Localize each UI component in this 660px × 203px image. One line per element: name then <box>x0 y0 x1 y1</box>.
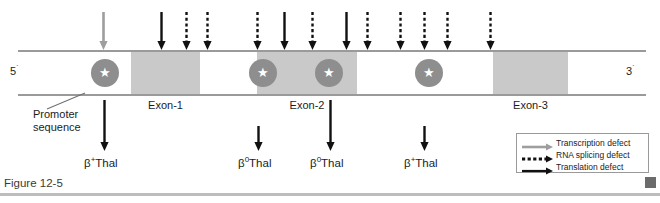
mutation-arrow-bthal-plus-2 <box>420 126 429 151</box>
gene-bar: ★★★★ <box>18 50 646 96</box>
mutation-arrow-bthal-zero-2 <box>326 100 335 151</box>
splicing-defect-arrow-9 <box>486 12 495 50</box>
star-marker-4: ★ <box>415 59 443 87</box>
star-marker-1: ★ <box>91 59 119 87</box>
footer-divider <box>0 193 660 196</box>
mutation-arrow-bthal-zero-1 <box>254 126 263 151</box>
exon-block-1 <box>131 52 200 94</box>
star-marker-2: ★ <box>249 59 277 87</box>
translation-defect-arrow-2 <box>280 12 289 50</box>
splicing-defect-arrow-7 <box>420 12 429 50</box>
beta-glyph: β <box>238 157 245 169</box>
beta-glyph: β <box>404 157 411 169</box>
mutation-label-2: β0Thal <box>238 155 271 169</box>
five-prime-label: 5´ <box>10 63 19 77</box>
exon-caption-1: Exon-1 <box>126 99 206 111</box>
mutation-label-1: β+Thal <box>84 155 118 169</box>
beta-glyph: β <box>310 157 317 169</box>
legend-rna-splicing: RNA splicing defect <box>521 149 648 160</box>
legend-rna-splicing-arrow-icon <box>521 150 553 160</box>
thal-text: Thal <box>95 157 117 169</box>
thal-text: Thal <box>321 157 343 169</box>
promoter-line-1: Promoter <box>33 108 81 121</box>
splicing-defect-arrow-1 <box>182 12 191 50</box>
thal-text: Thal <box>249 157 271 169</box>
legend-rows: Transcription defectRNA splicing defectT… <box>521 137 648 172</box>
splicing-defect-arrow-2 <box>203 12 212 50</box>
figure-caption: Figure 12-5 <box>4 177 63 189</box>
mutation-label-3: β0Thal <box>310 155 343 169</box>
legend-translation: Translation defect <box>521 161 648 172</box>
transcription-defect-arrow <box>99 12 108 50</box>
exon-caption-2: Exon-2 <box>267 99 347 111</box>
three-prime-label: 3´ <box>626 63 635 77</box>
figure-12-5-root: ★★★★ 5´ 3´ Exon-1Exon-2Exon-3 Promoter s… <box>0 0 660 203</box>
promoter-sequence-label: Promoter sequence <box>33 108 81 134</box>
promoter-line-2: sequence <box>33 121 81 134</box>
splicing-defect-arrow-6 <box>396 12 405 50</box>
splicing-defect-arrow-4 <box>308 12 317 50</box>
mutation-label-4: β+Thal <box>404 155 438 169</box>
mutation-arrow-bthal-plus-1 <box>100 100 109 151</box>
legend-transcription-arrow-icon <box>521 138 553 148</box>
beta-glyph: β <box>84 157 91 169</box>
legend-translation-arrow-icon <box>521 162 553 172</box>
translation-defect-arrow-1 <box>157 12 166 50</box>
exon-block-3 <box>493 52 568 94</box>
legend-transcription-label: Transcription defect <box>556 138 630 148</box>
legend-rna-splicing-label: RNA splicing defect <box>556 150 630 160</box>
splicing-defect-arrow-8 <box>443 12 452 50</box>
thal-text: Thal <box>415 157 437 169</box>
legend-translation-label: Translation defect <box>556 162 623 172</box>
splicing-defect-arrow-3 <box>253 12 262 50</box>
splicing-defect-arrow-5 <box>363 12 372 50</box>
legend-transcription: Transcription defect <box>521 137 648 148</box>
footer-square-marker <box>645 177 656 188</box>
star-marker-3: ★ <box>315 59 343 87</box>
exon-caption-3: Exon-3 <box>491 99 571 111</box>
legend-box: Transcription defectRNA splicing defectT… <box>516 133 649 173</box>
translation-defect-arrow-3 <box>342 12 351 50</box>
